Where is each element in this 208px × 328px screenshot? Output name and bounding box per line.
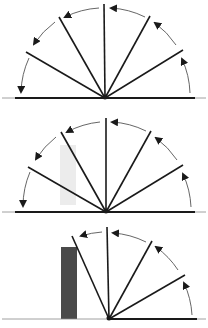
rod-positions [28,118,183,212]
rotating-rod-diagram-1 [0,0,208,108]
rod-positions [26,4,183,98]
rod-positions [72,227,185,319]
rotation-arrows [23,122,191,207]
obstacle-block [61,247,77,319]
rotating-rod-diagram-3 [0,218,208,328]
panel-1 [0,0,208,108]
panel-2 [0,108,208,218]
rotating-rod-diagram-2 [0,108,208,218]
panel-3 [0,218,208,328]
